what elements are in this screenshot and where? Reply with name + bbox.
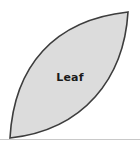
figure-container: Leaf [0,0,140,158]
leaf-shape-figure [0,0,140,158]
leaf-shape [10,12,128,138]
